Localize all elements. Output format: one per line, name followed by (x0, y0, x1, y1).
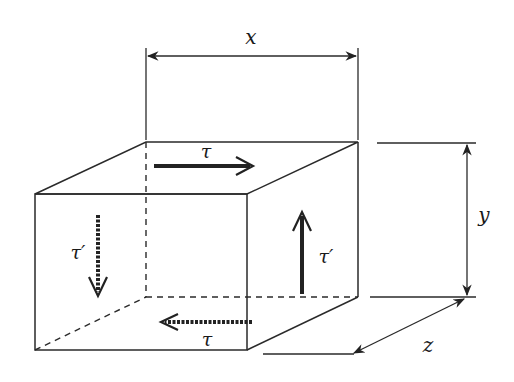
label-tau-bottom: τ (202, 328, 213, 350)
dimension-z (263, 299, 464, 354)
label-x: x (245, 25, 256, 49)
hidden-edge-bottom-diagonal (35, 297, 146, 350)
label-tau-prime-right: τ′ (319, 245, 335, 267)
cube-right-bottom-diagonal (247, 297, 358, 350)
label-z: z (422, 333, 434, 357)
arrow-tau-prime-right (293, 212, 311, 294)
arrow-tau-prime-left (89, 215, 107, 296)
dimension-y (370, 143, 476, 297)
label-tau-top: τ (201, 140, 212, 162)
cube-front-face (35, 194, 247, 350)
dimension-x (146, 48, 358, 140)
z-dimension-arrow (354, 299, 464, 353)
label-y: y (477, 203, 490, 227)
label-tau-prime-left: τ′ (71, 241, 87, 263)
shear-stress-cube-diagram: x y z τ τ′ τ′ τ (0, 0, 514, 382)
